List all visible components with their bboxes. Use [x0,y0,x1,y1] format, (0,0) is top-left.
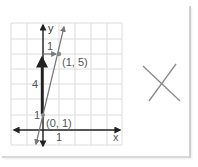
rise-label: 4 [32,78,38,90]
x-axis-label: x [113,131,119,143]
run-label: 1 [47,40,53,52]
y-axis-label: y [48,22,54,34]
point-0-1 [41,113,45,117]
point-label-1-5: (1, 5) [62,56,88,68]
y-tick-label: 1 [34,109,40,121]
point-label-0-1: (0, 1) [46,117,72,129]
graph-diagram: y x 1 (1, 5) 4 1 (0, 1) 1 [0,0,198,167]
incorrect-x-icon [143,64,180,101]
x-tick-label: 1 [56,131,62,143]
point-1-5 [57,52,61,56]
